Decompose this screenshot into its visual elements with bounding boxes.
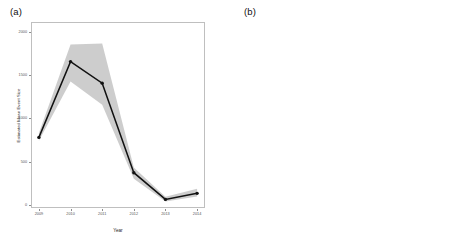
chart-panel-b: (b) Total # of Protesters (Thousands) Ye… (234, 0, 467, 243)
y-axis-tick-mark (29, 32, 31, 33)
data-point (100, 81, 103, 84)
y-axis-tick-mark (29, 75, 31, 76)
chart-panel-a: (a) Estimated Mean Event Size Year 05001… (0, 0, 233, 243)
x-axis-tick-mark (165, 209, 166, 211)
series-svg-b (234, 0, 467, 243)
series-svg-a (0, 0, 233, 243)
x-axis-tick-mark (197, 209, 198, 211)
x-axis-tick-label: 2011 (98, 212, 106, 216)
data-point (37, 136, 40, 139)
y-axis-tick-label: 2000 (12, 30, 27, 34)
y-axis-tick-mark (29, 118, 31, 119)
x-axis-tick-label: 2009 (35, 212, 43, 216)
y-axis-tick-label: 1000 (12, 116, 27, 120)
data-point (164, 198, 167, 201)
x-axis-tick-mark (134, 209, 135, 211)
data-point (132, 171, 135, 174)
data-point (69, 60, 72, 63)
x-axis-tick-label: 2013 (161, 212, 169, 216)
figure-canvas: (a) Estimated Mean Event Size Year 05001… (0, 0, 467, 243)
x-axis-tick-mark (102, 209, 103, 211)
x-axis-tick-mark (71, 209, 72, 211)
y-axis-tick-mark (29, 205, 31, 206)
y-axis-tick-mark (29, 162, 31, 163)
y-axis-tick-label: 1500 (12, 73, 27, 77)
confidence-band (39, 44, 197, 202)
x-axis-tick-label: 2010 (66, 212, 74, 216)
y-axis-tick-label: 500 (12, 160, 27, 164)
data-point (195, 192, 198, 195)
x-axis-tick-mark (39, 209, 40, 211)
x-axis-tick-label: 2014 (193, 212, 201, 216)
y-axis-tick-label: 0 (12, 203, 27, 207)
x-axis-tick-label: 2012 (130, 212, 138, 216)
